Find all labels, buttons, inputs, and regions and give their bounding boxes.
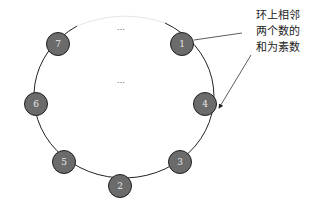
pointer-arrow-node-4 <box>219 55 251 108</box>
pointer-line-node-1 <box>194 33 242 40</box>
node-3-label: 3 <box>177 157 183 167</box>
node-3: 3 <box>169 151 192 174</box>
node-5: 5 <box>53 151 76 174</box>
ellipsis-center: … <box>117 76 125 85</box>
annotation-line-3: 和为素数 <box>256 40 312 56</box>
node-2-label: 2 <box>117 181 123 191</box>
node-4-label: 4 <box>202 99 208 109</box>
node-6: 6 <box>25 93 48 116</box>
annotation-line-1: 环上相邻 <box>256 8 312 24</box>
node-2: 2 <box>109 175 132 198</box>
node-1-label: 1 <box>179 39 185 49</box>
node-5-label: 5 <box>61 157 67 167</box>
node-7: 7 <box>47 33 70 56</box>
node-6-label: 6 <box>33 99 39 109</box>
annotation-text: 环上相邻 两个数的 和为素数 <box>256 8 312 56</box>
node-4: 4 <box>194 93 217 116</box>
annotation-line-2: 两个数的 <box>256 24 312 40</box>
node-7-label: 7 <box>55 39 61 49</box>
ellipsis-top: … <box>117 23 125 32</box>
node-1: 1 <box>171 33 194 56</box>
